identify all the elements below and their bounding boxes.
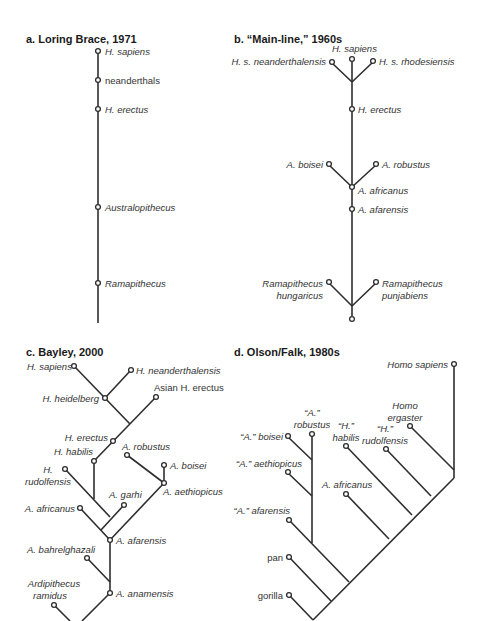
node-boisei bbox=[286, 434, 291, 439]
node-boisei bbox=[162, 463, 167, 468]
panel-a: a. Loring Brace, 1971 H. sapiens neander… bbox=[26, 33, 175, 323]
label-neanderthalensis: H. s. neanderthalensis bbox=[231, 56, 326, 67]
label-africanus: A. africanus bbox=[24, 503, 75, 514]
label-rudolfensis-2: rudolfensis bbox=[25, 476, 71, 487]
label-neanderthalensis: H. neanderthalensis bbox=[136, 365, 221, 376]
branch-boisei bbox=[288, 437, 312, 460]
branch-ramidus bbox=[54, 605, 70, 621]
node-ramidus bbox=[52, 603, 57, 608]
node-habilis bbox=[344, 444, 349, 449]
label-afarensis: A. afarensis bbox=[115, 535, 166, 546]
branch-neanderthalensis bbox=[105, 370, 131, 398]
node-rudolfensis bbox=[63, 467, 68, 472]
label-robustus-1: “A.” bbox=[304, 407, 320, 418]
branch-neanderthalensis bbox=[332, 63, 352, 82]
branch-gorilla bbox=[289, 595, 313, 620]
node-africanus bbox=[344, 492, 349, 497]
node-erectus bbox=[111, 439, 116, 444]
node-heidelberg bbox=[103, 396, 108, 401]
label-neanderthals: neanderthals bbox=[105, 75, 160, 86]
branch-rama-hungaricus bbox=[329, 283, 352, 306]
label-erectus: H. erectus bbox=[65, 432, 109, 443]
branch-robustus bbox=[127, 455, 164, 483]
label-aethiopicus: “A.” aethiopicus bbox=[236, 458, 302, 469]
label-h-erectus: H. erectus bbox=[358, 104, 402, 115]
label-ergaster-1: Homo bbox=[392, 400, 417, 411]
node-garhi bbox=[122, 503, 127, 508]
branch-bahrelghazali bbox=[87, 558, 110, 582]
label-habilis-1: “H.” bbox=[338, 420, 355, 431]
label-boisei: A. boisei bbox=[286, 159, 324, 170]
node-afarensis bbox=[350, 207, 355, 212]
node-h-erectus bbox=[96, 107, 101, 112]
branch-rama-punjabiens bbox=[352, 283, 376, 306]
node-neanderthalensis bbox=[330, 60, 335, 65]
node-sapiens bbox=[72, 364, 77, 369]
node-australopithecus bbox=[96, 205, 101, 210]
node-ramapithecus bbox=[96, 281, 101, 286]
label-rama-hungaricus-2: hungaricus bbox=[277, 290, 324, 301]
node-neanderthals bbox=[96, 78, 101, 83]
label-africanus: A. africanus bbox=[321, 479, 372, 490]
label-gorilla: gorilla bbox=[258, 590, 284, 601]
node-robustus bbox=[374, 162, 379, 167]
node-habilis bbox=[92, 459, 97, 464]
panel-c-title: c. Bayley, 2000 bbox=[26, 346, 103, 358]
node-h-sapiens bbox=[96, 49, 101, 54]
label-robustus-2: robustus bbox=[294, 419, 331, 430]
panel-b-title: b. “Main-line,” 1960s bbox=[234, 33, 342, 45]
label-rhodesiensis: H. s. rhodesiensis bbox=[379, 56, 455, 67]
node-africanus bbox=[350, 185, 355, 190]
node-aethiopicus bbox=[286, 470, 291, 475]
label-robustus: A. robustus bbox=[381, 159, 430, 170]
label-boisei: A. boisei bbox=[169, 460, 207, 471]
node-africanus bbox=[78, 506, 83, 511]
label-ramidus-2: ramidus bbox=[33, 590, 67, 601]
label-ramapithecus: Ramapithecus bbox=[105, 278, 166, 289]
branch-anamensis-down bbox=[82, 593, 110, 621]
node-root bbox=[350, 317, 355, 322]
node-h-erectus bbox=[350, 107, 355, 112]
branch-robustus bbox=[352, 165, 376, 187]
label-rudolfensis-1: “H.” bbox=[377, 423, 394, 434]
label-aethiopicus: A. aethiopicus bbox=[162, 486, 223, 497]
branch-boisei bbox=[329, 165, 352, 187]
label-h-sapiens: H. sapiens bbox=[332, 43, 377, 54]
node-boisei bbox=[327, 162, 332, 167]
label-africanus: A. africanus bbox=[357, 185, 408, 196]
phylogeny-figure: a. Loring Brace, 1971 H. sapiens neander… bbox=[0, 0, 479, 621]
branch-afarensis bbox=[289, 520, 349, 582]
label-rudolfensis-1: H. bbox=[43, 464, 53, 475]
label-rama-punjabiens-1: Ramapithecus bbox=[382, 278, 443, 289]
label-australopithecus: Australopithecus bbox=[104, 202, 175, 213]
panel-b: b. “Main-line,” 1960s H. sapiens H. s. n… bbox=[231, 33, 454, 321]
panel-d-title: d. Olson/Falk, 1980s bbox=[234, 346, 340, 358]
node-asian-erectus bbox=[154, 395, 159, 400]
node-bahrelghazali bbox=[85, 556, 90, 561]
label-garhi: A. garhi bbox=[108, 489, 143, 500]
panel-d: d. Olson/Falk, 1980s Homo sapiens Homo e… bbox=[234, 346, 457, 620]
label-habilis-2: habilis bbox=[333, 432, 360, 443]
node-neanderthalensis bbox=[129, 368, 134, 373]
label-rudolfensis-2: rudolfensis bbox=[362, 435, 408, 446]
branch-pan bbox=[289, 557, 331, 601]
label-ergaster-2: ergaster bbox=[388, 412, 424, 423]
label-homo-sapiens: Homo sapiens bbox=[387, 359, 448, 370]
label-afarensis: “A.” afarensis bbox=[234, 505, 291, 516]
node-rhodesiensis bbox=[371, 59, 376, 64]
label-rama-punjabiens-2: punjabiens bbox=[381, 290, 428, 301]
branch-ergaster bbox=[410, 426, 454, 470]
node-homo-sapiens bbox=[452, 362, 457, 367]
label-ramidus-1: Ardipithecus bbox=[27, 578, 81, 589]
label-habilis: H. habilis bbox=[54, 446, 93, 457]
branch-garhi bbox=[101, 505, 124, 530]
label-asian-erectus: Asian H. erectus bbox=[154, 382, 224, 393]
node-pan bbox=[287, 555, 292, 560]
node-anamensis bbox=[108, 591, 113, 596]
label-h-erectus: H. erectus bbox=[105, 104, 149, 115]
backbone bbox=[313, 478, 454, 620]
node-robustus bbox=[310, 432, 315, 437]
panel-c: c. Bayley, 2000 bbox=[24, 346, 224, 621]
node-afarensis bbox=[108, 538, 113, 543]
panel-a-title: a. Loring Brace, 1971 bbox=[26, 33, 137, 45]
